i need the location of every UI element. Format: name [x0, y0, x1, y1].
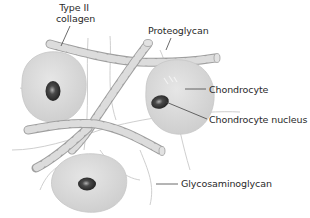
- cartilage-diagram: Type II collagen Proteoglycan Chondrocyt…: [0, 0, 310, 218]
- leader-type2-collagen: [61, 26, 70, 46]
- label-type2-collagen-line1: Type II: [56, 2, 92, 13]
- label-proteoglycan: Proteoglycan: [148, 25, 209, 36]
- label-chondrocyte: Chondrocyte: [209, 84, 268, 95]
- label-type2-collagen-line2: collagen: [56, 13, 92, 24]
- label-glycosaminoglycan: Glycosaminoglycan: [181, 178, 272, 189]
- bottom-chondrocyte: [51, 154, 126, 213]
- right-chondrocyte: [146, 60, 214, 134]
- left-nucleus: [46, 81, 61, 101]
- leader-proteoglycan: [166, 38, 171, 50]
- bottom-nucleus: [78, 178, 96, 191]
- label-type2-collagen: Type II collagen: [56, 2, 92, 24]
- left-chondrocyte: [22, 52, 87, 122]
- label-chondrocyte-nucleus: Chondrocyte nucleus: [209, 114, 307, 125]
